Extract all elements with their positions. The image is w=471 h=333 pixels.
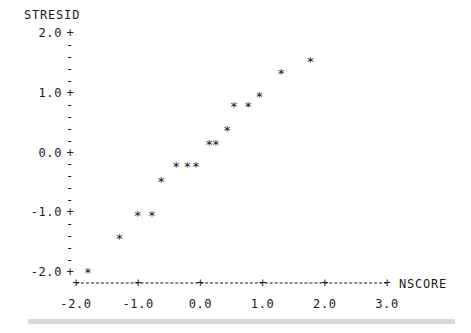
x-axis-tick-label: -2.0 — [60, 297, 91, 311]
y-axis-tick-label: 2.0 — [39, 26, 62, 40]
data-point: * — [307, 55, 315, 68]
x-axis-tick-label: 1.0 — [251, 297, 274, 311]
data-point: * — [277, 67, 285, 80]
data-point: * — [192, 160, 200, 173]
data-point: * — [183, 160, 191, 173]
data-point: * — [212, 137, 220, 150]
data-point: * — [84, 266, 92, 279]
data-point: * — [172, 160, 180, 173]
x-axis-tick-label: 0.0 — [189, 297, 212, 311]
y-axis-tick-label: -2.0 — [31, 265, 62, 279]
y-axis-minor-tick-mark: - — [64, 134, 75, 148]
y-axis-tick-label: 0.0 — [39, 146, 62, 160]
data-point: * — [134, 209, 142, 222]
x-axis-major-tick-mark: + — [319, 277, 330, 289]
x-axis-major-tick-mark: + — [195, 277, 206, 289]
y-axis-tick-neg2-0: -2.0+ — [20, 265, 76, 279]
x-axis-dashed-segment — [76, 283, 387, 284]
y-axis-tick-label: 1.0 — [39, 86, 62, 100]
y-axis-minor-tick-mark: - — [64, 193, 75, 207]
data-point: * — [256, 89, 264, 102]
normal-probability-plot: STRESID 2.0+1.0+0.0+-1.0+-2.0+ ---------… — [0, 0, 471, 333]
data-point: * — [230, 100, 238, 113]
data-point: * — [157, 175, 165, 188]
x-axis-major-tick-mark: + — [257, 277, 268, 289]
x-axis-tick-label: -1.0 — [123, 297, 154, 311]
x-axis-tick-label: 3.0 — [375, 297, 398, 311]
y-axis-tick-label: -1.0 — [31, 205, 62, 219]
x-axis-major-tick-mark: + — [382, 277, 393, 289]
data-point: * — [223, 124, 231, 137]
y-axis-minor-tick-mark: - — [64, 74, 75, 88]
x-axis-major-tick-mark: + — [71, 277, 82, 289]
bottom-divider-band — [28, 319, 455, 324]
data-point: * — [148, 209, 156, 222]
y-axis-minor-tick-mark: - — [64, 253, 75, 267]
y-axis-label: STRESID — [24, 8, 80, 22]
x-axis-label: NSCORE — [399, 277, 447, 291]
x-axis-tick-label: 2.0 — [313, 297, 336, 311]
data-point: * — [116, 231, 124, 244]
data-point: * — [244, 100, 252, 113]
plot-screen: STRESID 2.0+1.0+0.0+-1.0+-2.0+ ---------… — [0, 0, 471, 333]
x-axis-major-tick-mark: + — [133, 277, 144, 289]
